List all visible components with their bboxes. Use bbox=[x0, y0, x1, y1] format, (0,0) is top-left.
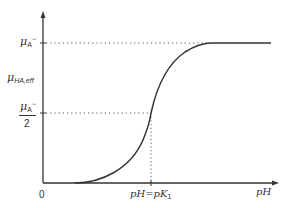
x-label-origin: 0 bbox=[39, 190, 45, 200]
sigmoid-curve bbox=[75, 43, 271, 183]
x-axis-label: pH bbox=[256, 187, 271, 197]
x-axis-arrow-icon bbox=[272, 181, 279, 186]
sup-minus: − bbox=[32, 35, 37, 42]
sub-one: 1 bbox=[167, 193, 171, 200]
y-label-mu-ha-eff: μHA,eff bbox=[7, 72, 34, 84]
sub-ha-eff: HA,eff bbox=[14, 77, 33, 84]
y-label-half-denominator: 2 bbox=[24, 119, 30, 129]
equals-sign: = bbox=[145, 188, 153, 199]
chart: μA− μHA,eff μA− 2 0 pH=pK1 pH bbox=[0, 0, 292, 208]
y-label-mu-a: μA− bbox=[20, 36, 37, 48]
fraction-bar bbox=[19, 115, 36, 116]
chart-canvas bbox=[0, 0, 292, 208]
sub-a: A bbox=[27, 106, 32, 113]
y-axis-arrow-icon bbox=[41, 11, 46, 18]
sub-a: A bbox=[27, 41, 32, 48]
sup-minus: − bbox=[32, 100, 37, 107]
x-label-pk1: pH=pK1 bbox=[130, 189, 171, 200]
pk-text: pK bbox=[154, 188, 168, 199]
y-label-half-numerator: μA− bbox=[20, 101, 37, 113]
ph-text: pH bbox=[130, 188, 145, 199]
